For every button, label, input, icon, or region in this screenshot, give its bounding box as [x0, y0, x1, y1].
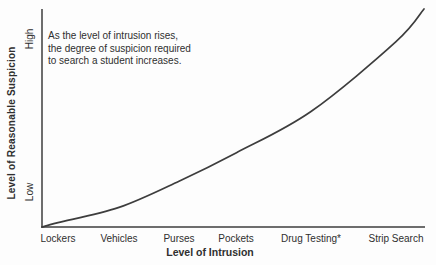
x-tick-label-vehicles: Vehicles	[100, 233, 137, 244]
y-axis-title: Level of Reasonable Suspicion	[6, 46, 17, 199]
x-tick-label-drug-testing: Drug Testing*	[281, 233, 341, 244]
x-tick-label-pockets: Pockets	[218, 233, 254, 244]
x-tick-label-strip-search: Strip Search	[368, 233, 423, 244]
x-axis-tick-labels: Lockers Vehicles Purses Pockets Drug Tes…	[0, 233, 436, 245]
annotation-text: As the level of intrusion rises, the deg…	[48, 30, 191, 68]
suspicion-vs-intrusion-chart: Level of Reasonable Suspicion High Low A…	[0, 0, 436, 265]
y-axis-high-label: High	[24, 29, 35, 50]
x-axis-title: Level of Intrusion	[166, 246, 254, 258]
x-tick-label-purses: Purses	[163, 233, 194, 244]
x-tick-label-lockers: Lockers	[40, 233, 75, 244]
y-axis-low-label: Low	[24, 183, 35, 201]
